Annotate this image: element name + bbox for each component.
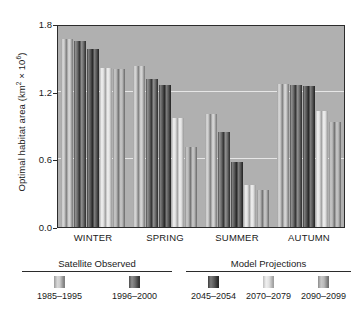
legend-item[interactable]: 2090–2099 — [296, 276, 351, 301]
bar — [244, 185, 249, 227]
legend-swatch — [318, 276, 329, 288]
legend-item[interactable]: 2070–2079 — [241, 276, 296, 301]
bar — [159, 85, 164, 227]
y-axis-title-main: Optimal habitat area (km — [16, 85, 27, 191]
bar — [231, 162, 236, 227]
bar — [106, 68, 111, 227]
bar — [290, 85, 295, 227]
y-axis-tick-label: 0.6 — [12, 155, 52, 165]
legend-item-label: 2045–2054 — [186, 291, 241, 301]
bar — [257, 190, 262, 227]
bar — [93, 49, 98, 227]
bar — [113, 69, 118, 227]
y-axis-tick-label: 1.2 — [12, 88, 52, 98]
bar — [87, 49, 92, 227]
bar — [277, 84, 282, 227]
bar — [263, 190, 268, 227]
legend-group-model-rule — [186, 271, 351, 272]
bar — [139, 66, 144, 227]
y-axis-title-sup-exp: 6 — [15, 56, 22, 60]
bar — [191, 147, 196, 227]
x-axis-label-winter: WINTER — [57, 232, 129, 243]
legend-swatch — [208, 276, 219, 288]
bar — [119, 69, 124, 227]
bar — [61, 39, 66, 227]
bar — [172, 118, 177, 227]
bar — [74, 41, 79, 227]
bar — [335, 122, 340, 227]
legend-item[interactable]: 1985–1995 — [22, 276, 97, 301]
bar — [224, 132, 229, 227]
bar — [100, 68, 105, 227]
legend-group-model-items: 2045–20542070–20792090–2099 — [186, 276, 351, 310]
legend-group-satellite: Satellite Observed 1985–19951996–2000 — [22, 258, 172, 310]
x-axis-label-autumn: AUTUMN — [273, 232, 345, 243]
bar — [80, 41, 85, 227]
legend-item-label: 1996–2000 — [97, 291, 172, 301]
x-axis-label-spring: SPRING — [129, 232, 201, 243]
figure: Optimal habitat area (km2 × 106) 0.00.61… — [0, 0, 357, 317]
bar — [237, 162, 242, 227]
bar — [211, 114, 216, 227]
legend-item-label: 2090–2099 — [296, 291, 351, 301]
legend-item[interactable]: 2045–2054 — [186, 276, 241, 301]
legend-group-satellite-items: 1985–19951996–2000 — [22, 276, 172, 310]
bar — [303, 86, 308, 227]
legend-group-satellite-rule — [22, 271, 172, 272]
bar — [316, 111, 321, 227]
bar — [283, 84, 288, 227]
legend: Satellite Observed 1985–19951996–2000 Mo… — [0, 258, 357, 317]
legend-item-label: 1985–1995 — [22, 291, 97, 301]
bar — [165, 85, 170, 227]
legend-group-satellite-title: Satellite Observed — [22, 258, 172, 270]
legend-item[interactable]: 1996–2000 — [97, 276, 172, 301]
bar — [205, 114, 210, 227]
plot-area — [57, 25, 345, 228]
y-axis-title-mid: × 10 — [16, 60, 27, 82]
legend-swatch — [129, 276, 140, 288]
legend-group-model-title: Model Projections — [186, 258, 351, 270]
x-axis-label-summer: SUMMER — [201, 232, 273, 243]
bar — [178, 118, 183, 227]
y-axis-tick-label: 1.8 — [12, 20, 52, 30]
y-axis-title-sup-km: 2 — [15, 81, 22, 85]
bar — [322, 111, 327, 227]
bar — [218, 132, 223, 227]
y-axis-title-end: ) — [16, 53, 27, 56]
bar — [67, 39, 72, 227]
legend-item-label: 2070–2079 — [241, 291, 296, 301]
bar — [185, 147, 190, 227]
bar — [296, 85, 301, 227]
y-axis-tick-label: 0.0 — [12, 223, 52, 233]
legend-group-model: Model Projections 2045–20542070–20792090… — [186, 258, 351, 310]
bar — [146, 79, 151, 227]
y-axis-title: Optimal habitat area (km2 × 106) — [15, 27, 27, 217]
bar — [250, 185, 255, 227]
legend-swatch — [54, 276, 65, 288]
legend-swatch — [263, 276, 274, 288]
bar — [152, 79, 157, 227]
bar — [329, 122, 334, 227]
bar — [309, 86, 314, 227]
bar — [133, 66, 138, 227]
y-axis-tick-mark — [53, 228, 57, 229]
